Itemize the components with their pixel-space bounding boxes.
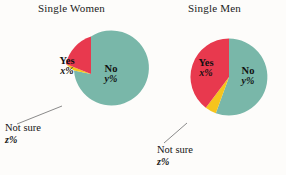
callout-not-sure: Not sure z% [5,122,41,145]
callout-not-sure-name: Not sure [5,122,41,134]
chart-title-single-women: Single Women [0,2,143,14]
pie-panel-single-men: Single Men Yes x% No y% Not sure [143,0,286,175]
leader-line-not-sure [143,122,213,144]
callout-not-sure-value: z% [5,134,41,145]
pie-slice-yes [66,37,91,75]
callout-not-sure: Not sure z% [157,144,193,167]
pie-svg-single-women [53,36,129,112]
pie-svg-single-men [190,38,268,116]
callout-not-sure-value: z% [157,156,193,167]
pie-chart-single-men [190,38,268,116]
chart-title-single-men: Single Men [143,2,286,14]
pie-panel-single-women: Single Women Yes x% No y% [0,0,143,175]
pie-chart-single-women [53,36,129,112]
figure-container: Single Women Yes x% No y% [0,0,286,175]
callout-not-sure-name: Not sure [157,144,193,156]
